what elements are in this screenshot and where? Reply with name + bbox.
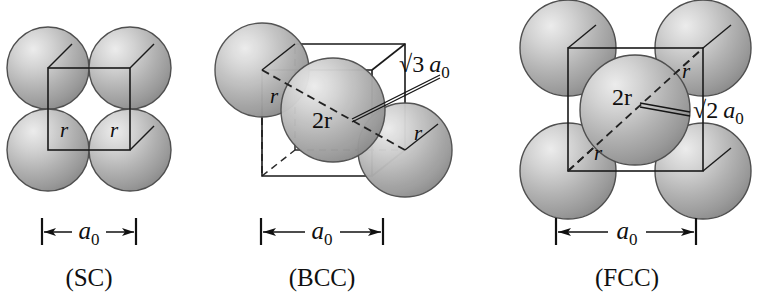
- sc-diagram: r r a0 (SC): [0, 0, 200, 303]
- bcc-caption: (BCC): [289, 264, 356, 292]
- sc-dimension-label: a0: [79, 217, 100, 249]
- sc-dimension: a0: [42, 217, 136, 249]
- bcc-diagonal-label: √3a0: [399, 51, 450, 82]
- sc-radius-label-left: r: [60, 118, 69, 142]
- bcc-hidden-edge-depth: [262, 150, 295, 176]
- bcc-radius-label-bottom-right: r: [414, 121, 423, 145]
- panel-simple-cubic: r r a0 (SC): [0, 0, 200, 303]
- panel-body-centered-cubic: r r 2r √3a0 a0 (BCC): [200, 0, 480, 303]
- fcc-diagram: 2r r r √2a0 a0 (FCC): [490, 0, 780, 303]
- crystal-structure-figure: r r a0 (SC): [0, 0, 780, 303]
- bcc-center-sphere-label: 2r: [312, 107, 332, 133]
- fcc-dimension-label: a0: [617, 217, 638, 249]
- fcc-dimension: a0: [556, 217, 696, 249]
- fcc-center-sphere-label: 2r: [612, 84, 632, 110]
- bcc-diagram: r r 2r √3a0 a0 (BCC): [200, 0, 480, 303]
- bcc-dimension: a0: [261, 217, 383, 249]
- fcc-radius-label-bottom-left: r: [594, 141, 603, 165]
- sc-radius-label-right: r: [110, 118, 119, 142]
- panel-face-centered-cubic: 2r r r √2a0 a0 (FCC): [490, 0, 780, 303]
- fcc-radius-label-top-right: r: [682, 59, 691, 83]
- fcc-caption: (FCC): [595, 264, 659, 292]
- bcc-radius-label-top-left: r: [270, 84, 279, 108]
- bcc-dimension-label: a0: [312, 217, 333, 249]
- sc-caption: (SC): [65, 264, 112, 292]
